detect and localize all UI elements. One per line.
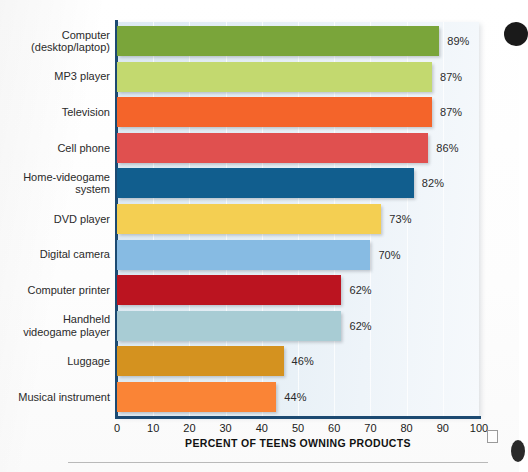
bar xyxy=(117,204,381,234)
bar-row: 70% xyxy=(117,240,479,270)
bar-row: 62% xyxy=(117,275,479,305)
category-label: Digital camera xyxy=(0,240,110,270)
bar-value-label: 73% xyxy=(389,213,411,225)
category-label: Luggage xyxy=(0,346,110,376)
page-edge-mark-bottom xyxy=(511,440,525,462)
x-tick-label: 50 xyxy=(292,422,304,434)
bar-value-label: 62% xyxy=(349,320,371,332)
bar-row: 86% xyxy=(117,133,479,163)
x-tick-label: 20 xyxy=(183,422,195,434)
x-tick-label: 60 xyxy=(328,422,340,434)
category-label: Television xyxy=(0,97,110,127)
bar xyxy=(117,382,276,412)
page-edge-mark-top xyxy=(504,22,528,46)
bar-row: 82% xyxy=(117,168,479,198)
bar xyxy=(117,133,428,163)
x-tick-label: 10 xyxy=(147,422,159,434)
x-tick-label: 70 xyxy=(364,422,376,434)
bar-value-label: 44% xyxy=(284,391,306,403)
x-tick-label: 80 xyxy=(400,422,412,434)
x-tick-label: 90 xyxy=(437,422,449,434)
x-tick-label: 30 xyxy=(219,422,231,434)
category-label: Cell phone xyxy=(0,133,110,163)
page-edge-mark-square xyxy=(487,430,498,443)
bar-value-label: 89% xyxy=(447,35,469,47)
bar-value-label: 46% xyxy=(292,355,314,367)
bar xyxy=(117,311,341,341)
bar-row: 46% xyxy=(117,346,479,376)
bar-chart-figure: Computer (desktop/laptop)MP3 playerTelev… xyxy=(0,0,500,455)
x-tick-label: 40 xyxy=(256,422,268,434)
x-tick-label: 0 xyxy=(114,422,120,434)
x-tick-label: 100 xyxy=(470,422,488,434)
bar-value-label: 86% xyxy=(436,142,458,154)
bar-value-label: 87% xyxy=(440,106,462,118)
bar xyxy=(117,275,341,305)
bar-value-label: 62% xyxy=(349,284,371,296)
category-label: Home-videogame system xyxy=(0,168,110,198)
bar xyxy=(117,26,439,56)
bar-row: 62% xyxy=(117,311,479,341)
bar-row: 87% xyxy=(117,97,479,127)
category-label: Computer (desktop/laptop) xyxy=(0,26,110,56)
bar xyxy=(117,62,432,92)
category-label: Handheld videogame player xyxy=(0,311,110,341)
category-label: MP3 player xyxy=(0,62,110,92)
page-divider-rule xyxy=(68,462,488,463)
bar-row: 89% xyxy=(117,26,479,56)
x-axis-title: PERCENT OF TEENS OWNING PRODUCTS xyxy=(117,437,479,449)
bar-row: 44% xyxy=(117,382,479,412)
bar-row: 73% xyxy=(117,204,479,234)
bar-value-label: 70% xyxy=(378,249,400,261)
bar-value-label: 82% xyxy=(422,177,444,189)
category-label: DVD player xyxy=(0,204,110,234)
bar xyxy=(117,240,370,270)
bar xyxy=(117,168,414,198)
category-label: Computer printer xyxy=(0,275,110,305)
bar-value-label: 87% xyxy=(440,71,462,83)
category-label: Musical instrument xyxy=(0,382,110,412)
bar xyxy=(117,346,284,376)
bar-row: 87% xyxy=(117,62,479,92)
bar xyxy=(117,97,432,127)
x-axis-line xyxy=(115,416,481,419)
